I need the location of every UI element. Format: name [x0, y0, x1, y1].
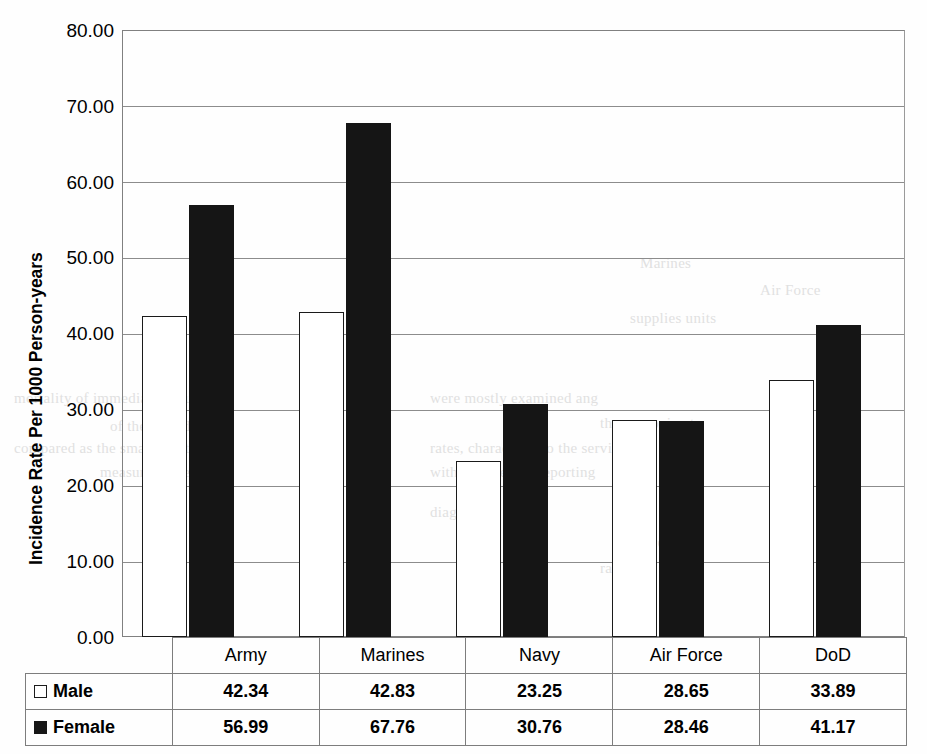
female-swatch-icon: [34, 721, 47, 734]
table-row-headers: Army Marines Navy Air Force DoD: [26, 638, 907, 674]
cell-female-army: 56.99: [172, 710, 319, 746]
male-swatch-icon: [34, 685, 47, 698]
legend-item-male: Male: [26, 674, 173, 710]
cell-female-dod: 41.17: [760, 710, 907, 746]
y-tick-label: 70.00: [14, 96, 114, 118]
y-tick-label: 50.00: [14, 247, 114, 269]
cell-female-navy: 30.76: [466, 710, 613, 746]
y-tick-label: 60.00: [14, 172, 114, 194]
table-corner-cell: [26, 638, 173, 674]
cell-male-air-force: 28.65: [613, 674, 760, 710]
table-row: Female 56.99 67.76 30.76 28.46 41.17: [26, 710, 907, 746]
table-row: Male 42.34 42.83 23.25 28.65 33.89: [26, 674, 907, 710]
legend-item-female: Female: [26, 710, 173, 746]
cell-female-air-force: 28.46: [613, 710, 760, 746]
cell-male-dod: 33.89: [760, 674, 907, 710]
y-tick-label: 10.00: [14, 551, 114, 573]
cell-male-navy: 23.25: [466, 674, 613, 710]
cell-male-marines: 42.83: [319, 674, 466, 710]
y-tick-label: 80.00: [14, 20, 114, 42]
chart-page: DoDMarinesAir Forcesupplies unitsmortali…: [0, 0, 927, 754]
legend-label-female: Female: [53, 717, 115, 737]
cell-male-army: 42.34: [172, 674, 319, 710]
category-header-navy: Navy: [466, 638, 613, 674]
y-tick-label: 20.00: [14, 475, 114, 497]
legend-label-male: Male: [53, 681, 93, 701]
category-header-army: Army: [172, 638, 319, 674]
y-tick-label: 30.00: [14, 399, 114, 421]
y-tick-label: 40.00: [14, 323, 114, 345]
category-header-air-force: Air Force: [613, 638, 760, 674]
category-header-dod: DoD: [760, 638, 907, 674]
cell-female-marines: 67.76: [319, 710, 466, 746]
data-table: Army Marines Navy Air Force DoD Male 42.…: [25, 637, 907, 746]
category-header-marines: Marines: [319, 638, 466, 674]
